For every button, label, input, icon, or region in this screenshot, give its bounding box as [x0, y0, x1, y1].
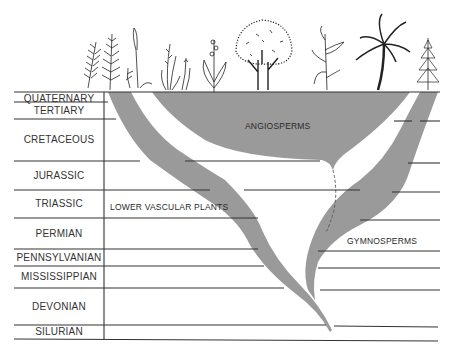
period-label-pennsylvanian: PENNSYLVANIAN — [14, 253, 104, 263]
corn-plant-icon — [312, 26, 344, 90]
grid-line-silurian — [14, 339, 438, 341]
period-label-tertiary: TERTIARY — [14, 106, 104, 116]
grass-sprig-icon — [182, 58, 190, 90]
group-label-lower-vascular-plants: LOWER VASCULAR PLANTS — [110, 202, 228, 212]
fern-with-spike-icon — [126, 28, 152, 88]
period-label-silurian: SILURIAN — [14, 327, 104, 337]
group-label-gymnosperms: GYMNOSPERMS — [347, 236, 417, 246]
period-label-cretaceous: CRETACEOUS — [14, 135, 104, 145]
plant-evolution-diagram: QUATERNARY TERTIARY CRETACEOUS JURASSIC … — [0, 0, 452, 355]
club-moss-icon — [84, 42, 101, 88]
period-label-jurassic: JURASSIC — [14, 171, 104, 181]
palm-tree-icon — [356, 14, 410, 90]
group-label-angiosperms: ANGIOSPERMS — [245, 121, 311, 131]
horsetail-icon — [102, 34, 120, 90]
period-label-mississippian: MISSISSIPPIAN — [14, 272, 104, 282]
grid-line-devonian-right — [334, 326, 438, 327]
period-label-triassic: TRIASSIC — [14, 199, 104, 209]
orchid-icon — [203, 40, 226, 92]
plant-illustrations — [84, 14, 439, 92]
deciduous-tree-icon — [236, 20, 292, 90]
period-label-quaternary: QUATERNARY — [14, 94, 104, 104]
grass-icon — [162, 44, 181, 90]
conifer-icon — [417, 38, 439, 90]
period-label-devonian: DEVONIAN — [14, 302, 104, 312]
period-label-permian: PERMIAN — [14, 229, 104, 239]
angiosperms-lineage — [152, 92, 410, 170]
